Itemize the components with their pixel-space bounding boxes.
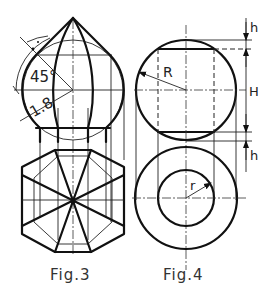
fig4-inner-radius-label: r: [190, 178, 196, 193]
fig3-caption: Fig.3: [50, 266, 91, 284]
fig4-radius-label: R: [163, 64, 173, 80]
fig4-front-view: R h H h: [134, 18, 259, 270]
fig4-caption: Fig.4: [163, 266, 204, 284]
technical-drawing: 45° 1.8 Fig.3: [0, 0, 271, 290]
fig4-plan-view: r Fig.4: [132, 147, 246, 284]
fig4-top-h-label: h: [250, 20, 258, 35]
fig3-plan-center: [71, 199, 76, 204]
fig3-front-view: 45° 1.8: [13, 18, 124, 255]
fig4-bottom-h-label: h: [250, 148, 258, 163]
fig3-angle-label: 45°: [30, 68, 57, 86]
fig4-H-label: H: [249, 84, 259, 99]
